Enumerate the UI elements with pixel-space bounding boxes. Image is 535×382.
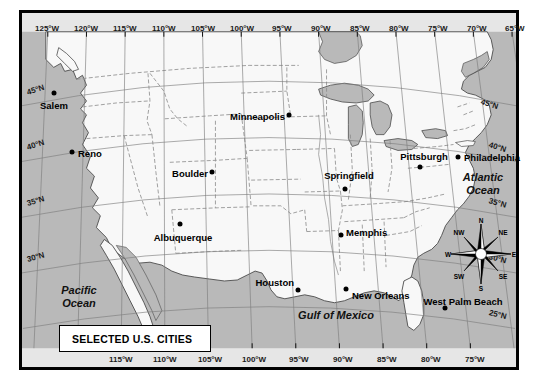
city-label-salem: Salem xyxy=(40,100,68,111)
city-label-minneapolis: Minneapolis xyxy=(230,111,285,122)
city-dot-memphis[interactable] xyxy=(339,233,344,238)
lon-label-bottom-2: 105°W xyxy=(198,355,222,364)
city-dot-salem[interactable] xyxy=(52,91,57,96)
city-dot-new-orleans[interactable] xyxy=(344,287,349,292)
lon-label-top-8: 85°W xyxy=(350,24,370,33)
lon-label-top-10: 75°W xyxy=(428,24,448,33)
lon-label-top-9: 80°W xyxy=(389,24,409,33)
compass-label-se: SE xyxy=(499,273,508,280)
city-label-albuquerque: Albuquerque xyxy=(154,232,213,243)
lon-label-bottom-7: 80°W xyxy=(421,355,441,364)
pacific-line-1: Pacific xyxy=(61,284,96,296)
city-dot-reno[interactable] xyxy=(70,150,75,155)
city-label-houston: Houston xyxy=(255,277,294,288)
water-label-pacific-ocean: Pacific Ocean xyxy=(61,284,96,310)
city-dot-boulder[interactable] xyxy=(210,170,215,175)
city-dot-houston[interactable] xyxy=(296,288,301,293)
city-label-boulder: Boulder xyxy=(172,168,208,179)
lon-label-top-5: 100°W xyxy=(230,24,254,33)
compass-rose: N NE E SE S SW W NW xyxy=(445,218,517,290)
atlantic-line-2: Ocean xyxy=(466,184,500,196)
city-label-pittsburgh: Pittsburgh xyxy=(400,151,448,162)
lon-label-bottom-3: 100°W xyxy=(242,355,266,364)
city-label-memphis: Memphis xyxy=(346,227,387,238)
city-dot-minneapolis[interactable] xyxy=(287,113,292,118)
city-label-west-palm-beach: West Palm Beach xyxy=(423,296,502,307)
lon-label-bottom-6: 85°W xyxy=(377,355,397,364)
lon-label-top-1: 120°W xyxy=(74,24,98,33)
lon-label-bottom-1: 110°W xyxy=(153,355,177,364)
compass-label-n: N xyxy=(479,217,484,224)
lon-label-bottom-5: 90°W xyxy=(333,355,353,364)
city-label-reno: Reno xyxy=(78,148,102,159)
legend-title: SELECTED U.S. CITIES xyxy=(60,333,192,345)
lon-label-top-6: 95°W xyxy=(272,24,292,33)
city-dot-philadelphia[interactable] xyxy=(456,155,461,160)
lon-label-bottom-8: 75°W xyxy=(465,355,485,364)
lon-label-top-2: 115°W xyxy=(113,24,137,33)
selected-us-cities-map: 125°W 120°W 115°W 110°W 105°W 100°W 95°W… xyxy=(0,0,535,382)
lon-label-top-12: 65°W xyxy=(505,24,525,33)
map-legend: SELECTED U.S. CITIES xyxy=(59,325,211,352)
lon-label-top-7: 90°W xyxy=(311,24,331,33)
map-drawing-canvas xyxy=(21,12,517,368)
compass-label-e: E xyxy=(512,251,516,258)
compass-label-s: S xyxy=(479,285,483,292)
city-label-springfield: Springfield xyxy=(324,170,374,181)
lon-label-top-0: 125°W xyxy=(35,24,59,33)
water-label-gulf-of-mexico: Gulf of Mexico xyxy=(298,309,374,322)
city-dot-pittsburgh[interactable] xyxy=(418,165,423,170)
city-label-philadelphia: Philadelphia xyxy=(464,152,520,163)
compass-label-sw: SW xyxy=(454,273,464,280)
lake-ontario xyxy=(422,129,448,139)
lon-label-top-11: 70°W xyxy=(467,24,487,33)
lon-label-bottom-0: 115°W xyxy=(109,355,133,364)
lon-label-bottom-4: 95°W xyxy=(289,355,309,364)
city-dot-albuquerque[interactable] xyxy=(178,222,183,227)
city-dot-springfield[interactable] xyxy=(343,187,348,192)
lon-label-top-4: 105°W xyxy=(191,24,215,33)
atlantic-line-1: Atlantic xyxy=(463,171,503,183)
lon-label-top-3: 110°W xyxy=(152,24,176,33)
compass-label-ne: NE xyxy=(498,229,507,236)
pacific-line-2: Ocean xyxy=(62,297,96,309)
city-label-new-orleans: New Orleans xyxy=(352,290,410,301)
compass-label-w: W xyxy=(445,251,451,258)
map-neatline-frame: 125°W 120°W 115°W 110°W 105°W 100°W 95°W… xyxy=(19,10,519,370)
water-label-atlantic-ocean: Atlantic Ocean xyxy=(463,171,503,197)
compass-label-nw: NW xyxy=(454,229,465,236)
